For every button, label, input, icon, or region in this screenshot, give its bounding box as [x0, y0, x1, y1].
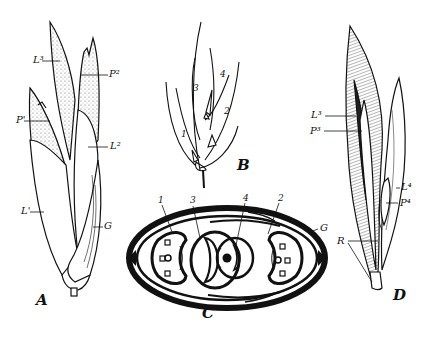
label-a-palea-2: P²: [109, 69, 120, 79]
panel-letter-b: B: [237, 158, 250, 173]
label-d-rachilla: R: [337, 236, 345, 246]
spikelet-figure: [0, 0, 430, 337]
label-c-glume: G: [320, 223, 328, 233]
label-b-floret-4: 4: [220, 70, 226, 79]
label-c-floret-4: 4: [243, 194, 249, 203]
panel-d-drawing: [346, 26, 405, 290]
label-a-glume: G: [104, 221, 112, 231]
label-a-lemma-2: L²: [110, 141, 121, 151]
label-a-palea-1: P': [16, 115, 25, 125]
label-c-floret-3: 3: [190, 196, 196, 205]
label-d-lemma-4: L⁴: [401, 182, 412, 192]
label-a-lemma-3: L³: [33, 55, 44, 65]
label-b-floret-3: 3: [193, 84, 199, 93]
label-a-lemma-1: L': [21, 206, 30, 216]
panel-c-drawing: [128, 208, 326, 308]
panel-letter-c: C: [202, 306, 214, 321]
label-b-floret-1: 1: [181, 130, 187, 139]
label-d-palea-3: P³: [310, 126, 321, 136]
label-d-palea-4: P⁴: [400, 198, 411, 208]
label-c-floret-1: 1: [158, 196, 164, 205]
label-d-lemma-3: L³: [311, 110, 322, 120]
panel-letter-d: D: [393, 288, 406, 303]
panel-letter-a: A: [36, 293, 48, 308]
label-b-floret-2: 2: [224, 107, 230, 116]
panel-b-drawing: [166, 22, 239, 188]
label-c-floret-2: 2: [278, 194, 284, 203]
